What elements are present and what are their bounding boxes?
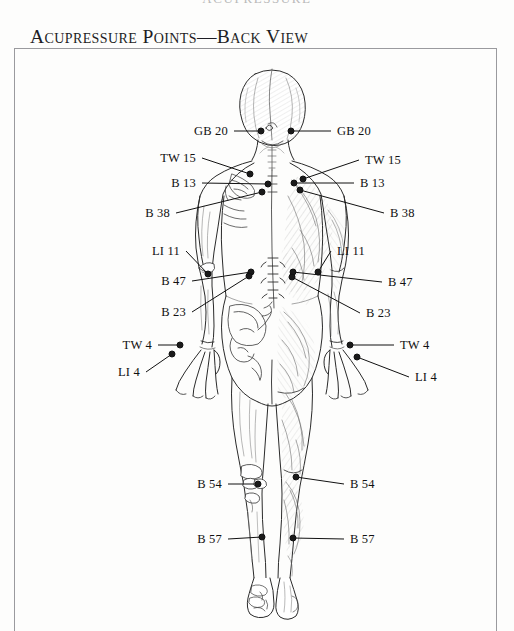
point-label-tw15-right: TW 15 xyxy=(365,153,401,168)
leader-line xyxy=(303,160,359,179)
point-label-tw15-left: TW 15 xyxy=(160,151,196,166)
back-view-body-illustration xyxy=(0,0,514,631)
acupressure-point-gb20-left[interactable] xyxy=(258,128,264,134)
point-label-li11-right: LI 11 xyxy=(337,244,365,259)
acupressure-point-li4-left[interactable] xyxy=(169,351,175,357)
feet-group xyxy=(247,578,298,619)
page-title: Acupressure Points—Back View xyxy=(26,26,314,48)
head-group xyxy=(240,69,306,146)
point-label-gb20-left: GB 20 xyxy=(194,124,228,139)
point-label-b13-left: B 13 xyxy=(171,176,196,191)
point-label-b13-right: B 13 xyxy=(360,176,385,191)
acupressure-point-b38-right[interactable] xyxy=(297,187,303,193)
acupressure-chart-page: ACUPRESSURE Acupressure Points—Back View xyxy=(0,0,514,631)
leader-line xyxy=(202,158,250,174)
pelvis-group xyxy=(222,296,323,406)
point-label-b57-left: B 57 xyxy=(197,532,222,547)
point-label-b54-right: B 54 xyxy=(350,477,375,492)
leader-line xyxy=(146,354,172,372)
point-label-li4-left: LI 4 xyxy=(118,365,140,380)
point-label-tw4-left: TW 4 xyxy=(123,338,152,353)
point-label-b47-left: B 47 xyxy=(161,274,186,289)
acupressure-point-tw15-right[interactable] xyxy=(300,176,306,182)
acupressure-point-b23-right[interactable] xyxy=(289,274,295,280)
leader-line xyxy=(296,477,344,484)
leader-line xyxy=(176,192,262,213)
acupressure-point-b54-left[interactable] xyxy=(255,481,261,487)
point-label-b23-left: B 23 xyxy=(161,305,186,320)
acupressure-point-li11-left[interactable] xyxy=(205,271,211,277)
acupressure-point-tw4-left[interactable] xyxy=(177,342,183,348)
anatomical-figure: GB 20TW 15B 13B 38LI 11B 47B 23TW 4LI 4B… xyxy=(0,0,514,631)
acupressure-point-tw15-left[interactable] xyxy=(247,171,253,177)
point-label-b38-left: B 38 xyxy=(145,206,170,221)
acupressure-point-gb20-right[interactable] xyxy=(288,128,294,134)
leader-line xyxy=(228,537,262,539)
acupressure-point-li4-right[interactable] xyxy=(354,354,360,360)
point-label-li11-left: LI 11 xyxy=(152,244,180,259)
acupressure-point-tw4-right[interactable] xyxy=(347,342,353,348)
point-label-b23-right: B 23 xyxy=(366,306,391,321)
acupressure-point-b57-right[interactable] xyxy=(290,535,296,541)
point-label-li4-right: LI 4 xyxy=(415,370,437,385)
leader-line xyxy=(202,183,268,184)
acupressure-point-b54-right[interactable] xyxy=(293,474,299,480)
acupressure-point-b38-left[interactable] xyxy=(259,189,265,195)
acupressure-point-b13-left[interactable] xyxy=(265,181,271,187)
acupressure-point-b13-right[interactable] xyxy=(291,180,297,186)
point-label-b54-left: B 54 xyxy=(197,477,222,492)
point-label-gb20-right: GB 20 xyxy=(337,124,371,139)
point-label-b47-right: B 47 xyxy=(388,275,413,290)
acupressure-point-b23-left[interactable] xyxy=(246,273,252,279)
point-label-b38-right: B 38 xyxy=(390,206,415,221)
leader-line xyxy=(357,357,409,377)
acupressure-point-b57-left[interactable] xyxy=(259,534,265,540)
point-label-b57-right: B 57 xyxy=(350,532,375,547)
point-label-tw4-right: TW 4 xyxy=(400,338,429,353)
